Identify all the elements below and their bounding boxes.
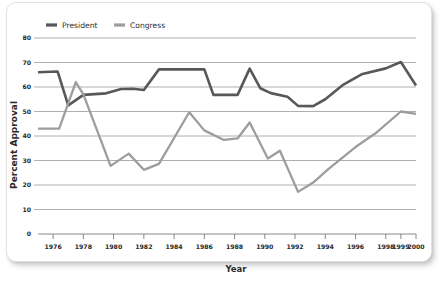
chart-legend: PresidentCongress: [46, 21, 165, 30]
legend-label-congress: Congress: [130, 21, 165, 30]
x-tick-label: 2000: [407, 243, 425, 250]
chart-container: PresidentCongress 01020304050607080 1976…: [0, 0, 448, 292]
x-tick-label: 1988: [226, 243, 243, 250]
x-tick-label: 1994: [317, 243, 335, 250]
x-tick-label: 1980: [105, 243, 123, 250]
data-series: [38, 62, 416, 192]
y-tick-label: 80: [22, 34, 31, 41]
x-tick-label: 1992: [286, 243, 303, 250]
y-tick-label: 30: [22, 157, 31, 164]
y-tick-label: 50: [22, 108, 31, 115]
x-axis-title: Year: [224, 264, 247, 274]
gridlines: [34, 38, 416, 210]
series-line-president: [38, 62, 416, 106]
x-tick-label: 1990: [256, 243, 274, 250]
y-tick-label: 40: [22, 132, 31, 139]
x-tick-label: 1982: [135, 243, 152, 250]
x-tick-label: 1976: [45, 243, 62, 250]
approval-line-chart: PresidentCongress 01020304050607080 1976…: [0, 0, 448, 292]
x-axis-ticks: 1976197819801982198419861988199019921994…: [45, 234, 426, 250]
y-tick-label: 20: [22, 181, 31, 188]
y-tick-label: 70: [22, 59, 31, 66]
series-line-congress: [38, 82, 416, 192]
y-axis-title: Percent Approval: [9, 101, 19, 189]
legend-label-president: President: [62, 21, 97, 30]
y-tick-label: 60: [22, 83, 31, 90]
x-tick-label: 1978: [75, 243, 92, 250]
x-tick-label: 1996: [347, 243, 364, 250]
y-tick-label: 10: [22, 206, 31, 213]
x-tick-label: 1984: [165, 243, 183, 250]
y-tick-label: 0: [27, 230, 32, 237]
y-axis-ticks: 01020304050607080: [22, 34, 31, 237]
x-tick-label: 1986: [196, 243, 213, 250]
